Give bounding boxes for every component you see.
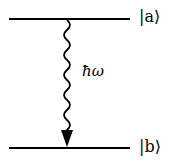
lower-level-label: |b⟩ [139, 139, 161, 155]
photon-wavy-line [64, 20, 70, 136]
photon-energy-label: ħω [82, 64, 104, 79]
upper-level-label: |a⟩ [139, 9, 160, 25]
arrowhead-icon [61, 130, 73, 147]
